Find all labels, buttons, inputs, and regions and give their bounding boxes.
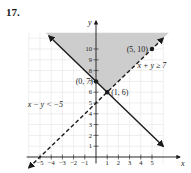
x-tick-label: 3	[128, 159, 131, 166]
x-tick-label: 2	[117, 159, 120, 166]
y-tick-label: 8	[89, 67, 92, 74]
x-tick-label: −1	[81, 159, 88, 166]
x-tick-label: −3	[59, 159, 66, 166]
y-tick-label: 3	[89, 121, 92, 128]
point-1-6	[105, 90, 109, 94]
y-tick-label: 2	[89, 132, 92, 139]
x-tick-label: 4	[139, 159, 143, 166]
x-tick-label: −2	[70, 159, 77, 166]
x-tick-label: −4	[48, 159, 56, 166]
point-label-1-6: (1, 6)	[111, 88, 129, 97]
x-axis-label: x	[180, 159, 185, 168]
annotation-x-minus-y-lt-neg-5: x − y < −5	[27, 100, 63, 109]
point-label-5-10: (5, 10)	[127, 45, 149, 54]
x-tick-label: 5	[150, 159, 153, 166]
annotation-x-plus-y-ge-7: x + y ≥ 7	[136, 61, 167, 70]
point-label-0-7: (0, 7)	[76, 77, 94, 86]
x-tick-label: 1	[106, 159, 109, 166]
inequality-graph: −5−4−3−2−11234512345678910xy(5, 10)(0, 7…	[0, 0, 191, 173]
y-tick-label: 9	[89, 56, 92, 63]
x-tick-label: −5	[37, 159, 44, 166]
y-tick-label: 1	[89, 142, 92, 149]
point-5-10	[150, 47, 154, 51]
y-tick-label: 5	[89, 99, 92, 106]
y-axis-label: y	[87, 18, 92, 27]
point-0-7	[94, 79, 98, 83]
y-tick-label: 10	[86, 45, 93, 52]
